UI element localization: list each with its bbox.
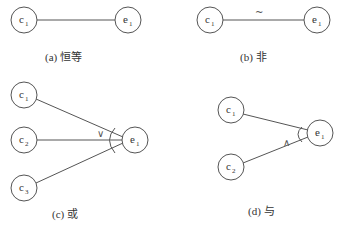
panel-identity: c 1 e 1 (a) 恒等 (11, 7, 141, 64)
node-cause-c1: c 1 (11, 7, 37, 33)
svg-text:c: c (19, 133, 24, 145)
svg-text:1: 1 (129, 20, 133, 28)
svg-text:c: c (19, 13, 24, 25)
node-cause-c1: c 1 (218, 97, 244, 123)
svg-text:3: 3 (25, 188, 29, 196)
edge-c3-e1 (36, 143, 123, 183)
node-cause-c2: c 2 (11, 127, 37, 153)
panel-not: ~ c 1 e 1 (b) 非 (197, 7, 330, 64)
edge-c2-e1 (243, 137, 308, 163)
svg-text:1: 1 (136, 140, 140, 148)
node-cause-c2: c 2 (218, 154, 244, 180)
node-cause-c1: c 1 (11, 82, 37, 108)
edge-c1-e1 (36, 99, 123, 137)
svg-text:2: 2 (25, 140, 29, 148)
svg-text:c: c (226, 103, 231, 115)
node-effect-e1: e 1 (304, 7, 330, 33)
svg-text:1: 1 (321, 133, 325, 141)
caption-d: (d) 与 (248, 205, 275, 218)
svg-text:e: e (123, 13, 128, 25)
panel-and: ∧ c 1 c 2 e 1 (d) 与 (218, 97, 333, 218)
svg-text:e: e (130, 133, 135, 145)
panel-or: ∨ c 1 c 2 c 3 e 1 (c) 或 (11, 82, 148, 221)
svg-text:1: 1 (25, 95, 29, 103)
svg-text:e: e (312, 13, 317, 25)
node-cause-c3: c 3 (11, 175, 37, 201)
svg-text:c: c (226, 160, 231, 172)
node-effect-e1: e 1 (122, 127, 148, 153)
svg-text:e: e (315, 126, 320, 138)
node-effect-e1: e 1 (115, 7, 141, 33)
svg-text:1: 1 (232, 110, 236, 118)
node-effect-e1: e 1 (307, 120, 333, 146)
and-symbol: ∧ (283, 137, 290, 148)
or-symbol: ∨ (97, 128, 104, 139)
caption-a: (a) 恒等 (45, 50, 82, 64)
caption-b: (b) 非 (240, 51, 267, 64)
node-cause-c1: c 1 (197, 7, 223, 33)
not-symbol: ~ (255, 7, 263, 18)
svg-text:1: 1 (211, 20, 215, 28)
svg-text:2: 2 (232, 167, 236, 175)
svg-text:c: c (19, 88, 24, 100)
edge-c1-e1 (243, 114, 308, 130)
svg-text:1: 1 (318, 20, 322, 28)
svg-text:c: c (19, 181, 24, 193)
cause-effect-diagram: c 1 e 1 (a) 恒等 ~ c 1 e 1 (b) 非 ∨ (0, 0, 343, 226)
svg-text:1: 1 (25, 20, 29, 28)
caption-c: (c) 或 (52, 208, 78, 221)
svg-text:c: c (205, 13, 210, 25)
